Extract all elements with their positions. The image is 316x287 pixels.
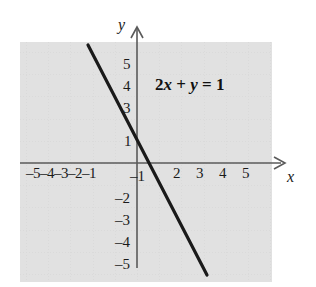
y-tick-3: 3 <box>123 101 131 116</box>
x-axis-negative-tick-labels: –5–4–3–2–1 <box>26 165 96 182</box>
y-tick-5: 5 <box>123 57 131 72</box>
equation-annotation: 2x + y = 1 <box>155 75 224 95</box>
x-tick-4: 4 <box>219 166 227 181</box>
equation-plus: + <box>172 75 190 94</box>
x-axis-label: x <box>287 168 294 186</box>
linear-equation-graph: y x –5–4–3–2–1 2 3 4 5 5 4 3 1 –1 –2 –3 … <box>0 0 316 287</box>
y-tick-neg-2: –2 <box>115 191 130 206</box>
y-tick-1: 1 <box>124 134 132 149</box>
y-tick-neg-5: –5 <box>115 257 130 272</box>
y-tick-neg-4: –4 <box>115 235 130 250</box>
equation-equals: = <box>198 75 216 94</box>
x-tick-5: 5 <box>242 166 250 181</box>
y-tick-4: 4 <box>123 79 131 94</box>
x-tick-2: 2 <box>173 166 181 181</box>
y-tick-neg-1: –1 <box>130 169 145 184</box>
y-tick-neg-3: –3 <box>115 213 130 228</box>
equation-var-y: y <box>190 75 198 94</box>
equation-constant: 1 <box>216 75 225 94</box>
x-tick-3: 3 <box>196 166 204 181</box>
equation-coefficient: 2 <box>155 75 164 94</box>
axes-and-plot <box>0 0 316 287</box>
y-axis-label: y <box>118 16 125 34</box>
equation-var-x: x <box>164 75 173 94</box>
